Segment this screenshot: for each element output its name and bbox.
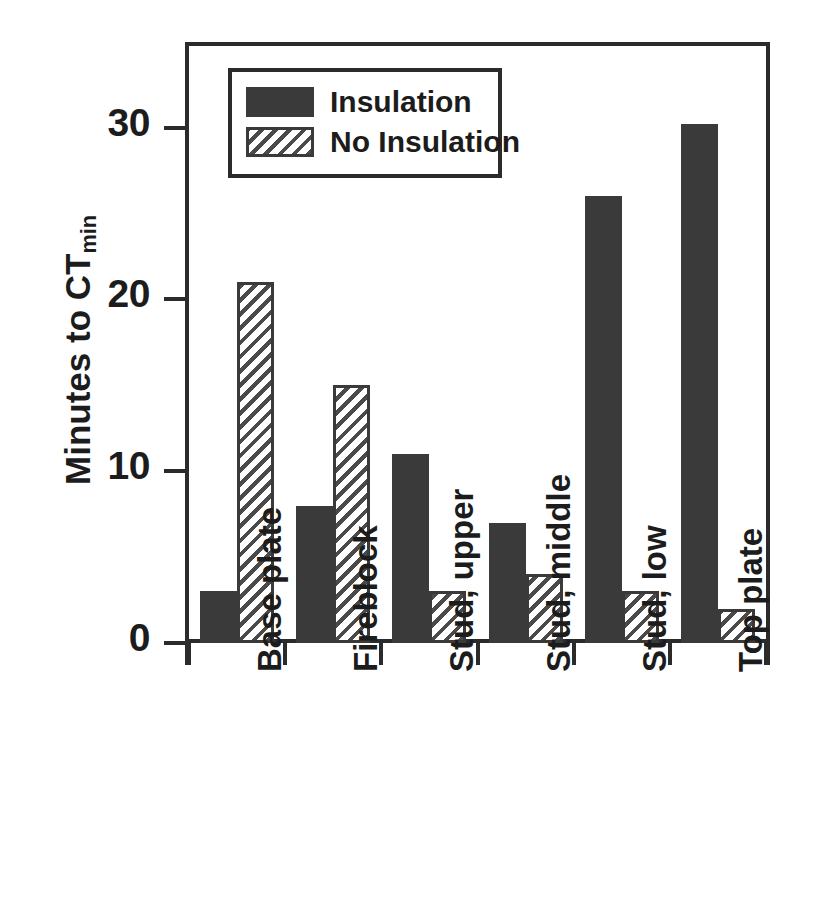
legend-item-insulation: Insulation: [246, 82, 498, 122]
bar-chart-figure: Minutes to CTmin 0102030 Base plateFireb…: [0, 0, 813, 916]
y-axis-tick-label-text: 20: [54, 272, 150, 316]
y-axis-tick-label-text: 30: [54, 101, 150, 145]
x-axis-tick: [187, 643, 191, 665]
bar-stud-upper-insulation: [392, 454, 429, 643]
chart-legend: Insulation No Insulation: [228, 68, 502, 178]
x-axis-label-stud-low: Stud, low: [636, 412, 674, 672]
legend-label-insulation: Insulation: [330, 87, 472, 117]
y-axis-title: Minutes to CTmin: [58, 100, 98, 600]
bar-stud-middle-insulation: [489, 523, 526, 643]
bar-fireblock-insulation: [296, 506, 333, 643]
y-axis-tick-label: 10: [54, 444, 150, 490]
x-axis-label-top-plate: Top plate: [732, 412, 770, 672]
y-axis-tick-label-text: 10: [54, 444, 150, 488]
bar-stud-low-insulation: [585, 196, 622, 643]
legend-label-no-insulation: No Insulation: [330, 127, 520, 157]
x-axis-label-base-plate: Base plate: [251, 412, 289, 672]
y-axis-tick-label: 30: [54, 101, 150, 147]
bar-base-plate-insulation: [200, 591, 237, 643]
y-axis-tick-label-text: 0: [54, 616, 150, 660]
legend-swatch-solid-icon: [246, 87, 314, 117]
legend-swatch-hatched-icon: [246, 127, 314, 157]
y-axis-tick: [164, 641, 186, 645]
y-axis-tick-label: 0: [54, 616, 150, 662]
y-axis-title-subscript: min: [76, 215, 101, 254]
y-axis-tick: [164, 126, 186, 130]
bar-top-plate-insulation: [681, 124, 718, 643]
x-axis-label-stud-upper: Stud, upper: [443, 412, 481, 672]
y-axis-tick: [164, 469, 186, 473]
y-axis-tick-label: 20: [54, 272, 150, 318]
legend-item-no-insulation: No Insulation: [246, 122, 498, 162]
x-axis-label-stud-middle: Stud, middle: [540, 412, 578, 672]
x-axis-label-fireblock: Fireblock: [347, 412, 385, 672]
y-axis-tick: [164, 297, 186, 301]
